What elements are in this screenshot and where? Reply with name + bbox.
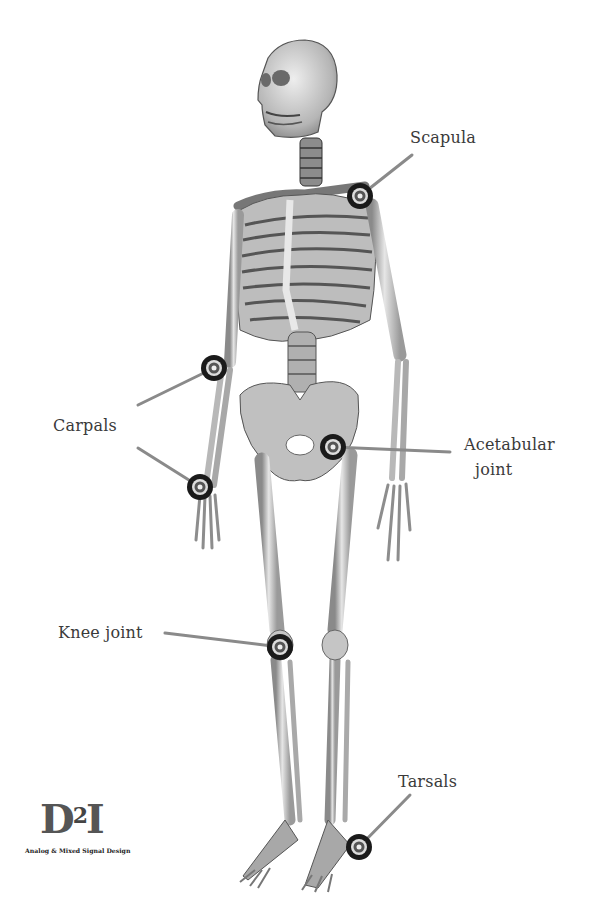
left-arm (372, 205, 410, 560)
label-acetabular-line2: joint (475, 460, 512, 479)
acetabular-marker-icon (320, 434, 346, 460)
skeleton-diagram: Scapula Carpals Acetabular joint Knee jo… (0, 0, 590, 921)
carpal-lower-marker-icon (187, 474, 213, 500)
logo-letter-d: D (40, 795, 73, 842)
logo-wordmark: D2I (40, 795, 103, 842)
label-scapula: Scapula (410, 128, 476, 147)
skull (258, 40, 337, 137)
label-knee-joint: Knee joint (58, 623, 143, 642)
tarsal-marker-icon (346, 834, 372, 860)
knee-marker-icon (267, 634, 293, 660)
ribcage (236, 194, 376, 342)
carpal-upper-marker-icon (201, 355, 227, 381)
label-tarsals: Tarsals (398, 772, 457, 791)
scapula-marker-icon (347, 183, 373, 209)
knee-leader (165, 633, 280, 647)
cervical-spine (300, 138, 322, 186)
logo-superscript: 2 (73, 802, 86, 828)
d2i-logo: D2I Analog & Mixed Signal Design (25, 795, 145, 865)
label-acetabular-line1: Acetabular (464, 435, 555, 454)
label-carpals: Carpals (53, 416, 117, 435)
lumbar-spine (288, 332, 316, 392)
logo-tagline: Analog & Mixed Signal Design (25, 847, 130, 854)
logo-letter-i: I (86, 795, 103, 842)
feet (240, 820, 350, 892)
